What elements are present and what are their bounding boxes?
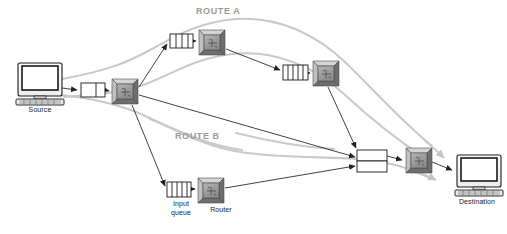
queue-final-bottom bbox=[357, 161, 387, 172]
route-b-label: ROUTE B bbox=[175, 131, 220, 141]
link-source-queue1 bbox=[62, 88, 77, 90]
source-computer bbox=[16, 63, 64, 105]
destination-computer bbox=[455, 155, 503, 196]
input-queue-label: Input queue bbox=[160, 200, 202, 217]
route-a-label: ROUTE A bbox=[196, 6, 240, 16]
queue-b1 bbox=[167, 182, 191, 197]
router-final bbox=[406, 148, 432, 173]
link-routera2-final bbox=[328, 87, 356, 148]
router-label: Router bbox=[201, 206, 241, 215]
link-routera1-queuea2 bbox=[226, 49, 280, 70]
source-label: Source bbox=[18, 106, 62, 115]
destination-label: Destination bbox=[449, 198, 505, 207]
link-routerb1-final bbox=[225, 166, 355, 188]
network-routing-diagram: ROUTE A ROUTE B Source Input queue Route… bbox=[0, 0, 507, 234]
queue-a1 bbox=[170, 34, 193, 48]
link-queue1-router1 bbox=[105, 90, 109, 91]
link-router-destination bbox=[432, 162, 452, 170]
queue-a2 bbox=[283, 65, 308, 80]
queue-final-top bbox=[357, 150, 387, 161]
router-1 bbox=[112, 79, 138, 104]
link-router1-final-direct bbox=[139, 95, 355, 157]
queue-1 bbox=[81, 83, 105, 97]
router-a2 bbox=[313, 61, 339, 86]
diagram-canvas bbox=[0, 0, 507, 234]
link-final-router bbox=[387, 156, 402, 160]
router-a1 bbox=[199, 30, 225, 55]
